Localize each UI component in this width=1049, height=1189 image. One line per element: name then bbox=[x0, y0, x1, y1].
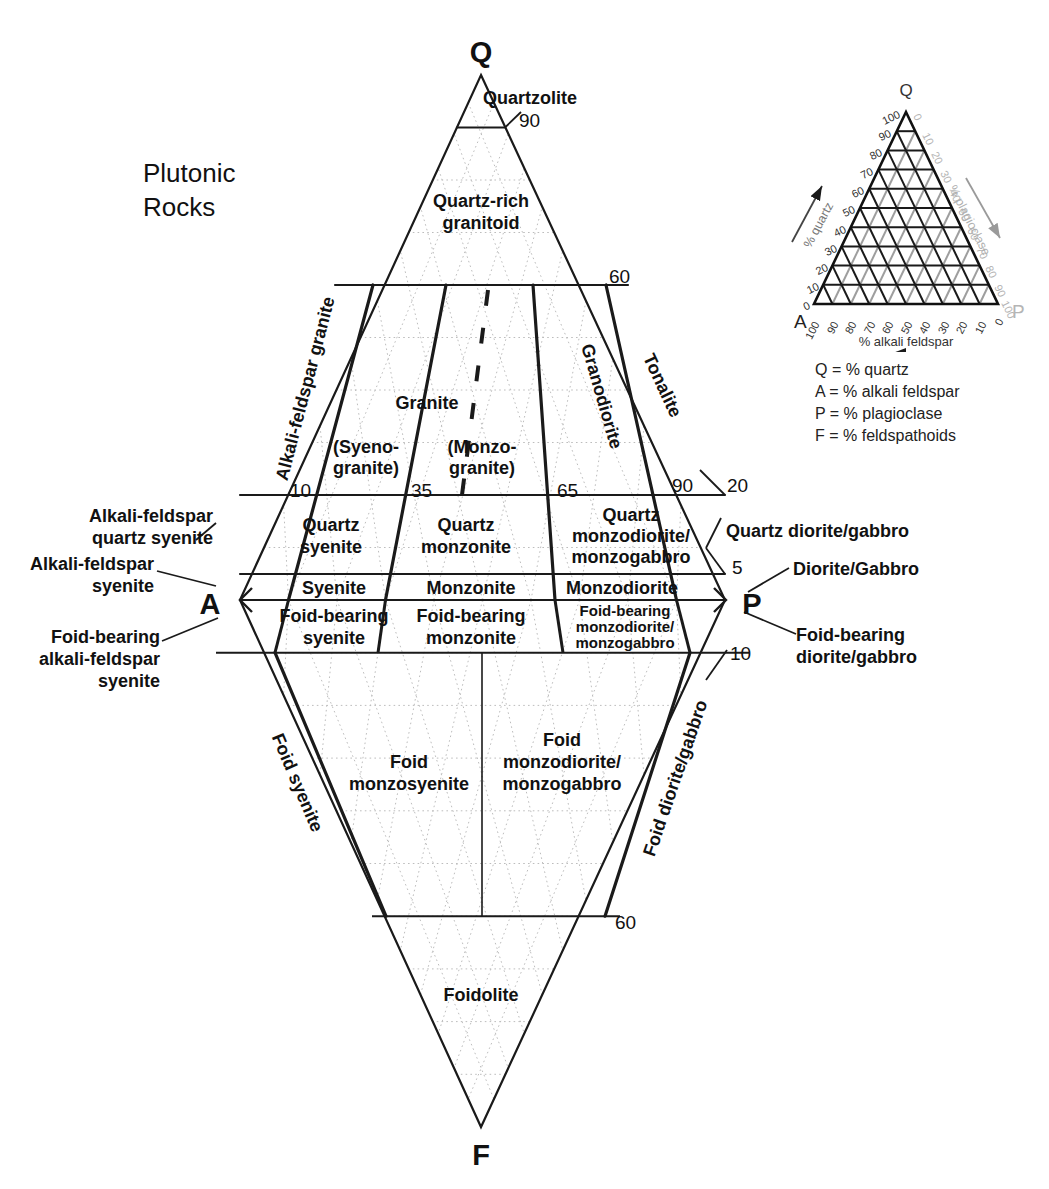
inset-left-tick-10: 100 bbox=[880, 108, 902, 127]
tick-a35: 35 bbox=[411, 480, 432, 501]
legend-item-2: P = % plagioclase bbox=[815, 405, 942, 422]
field-syeno-granite-l2: granite) bbox=[333, 458, 399, 478]
ext-dg: Diorite/Gabbro bbox=[793, 559, 919, 579]
field-granite: Granite bbox=[395, 393, 458, 413]
field-foid-bearing-monzonite-l1: Foid-bearing bbox=[417, 606, 526, 626]
field-foid-monzodiorite-l3: monzogabbro bbox=[503, 774, 622, 794]
legend-item-1: A = % alkali feldspar bbox=[815, 383, 960, 400]
field-foid-monzosyenite-l2: monzosyenite bbox=[349, 774, 469, 794]
ext-qdg: Quartz diorite/gabbro bbox=[726, 521, 909, 541]
page-title-line1: Plutonic bbox=[143, 158, 236, 188]
vertex-label-q: Q bbox=[470, 36, 493, 68]
inset-bottom-tick-10: 0 bbox=[992, 316, 1005, 327]
legend-item-3: F = % feldspathoids bbox=[815, 427, 956, 444]
vertex-label-a: A bbox=[200, 588, 221, 620]
tick-q90: 90 bbox=[519, 110, 540, 131]
field-foid-bearing-monzodiorite-l2: monzodiorite/ bbox=[576, 618, 675, 635]
tick-f60: 60 bbox=[615, 912, 636, 933]
field-syeno-granite-l1: (Syeno- bbox=[333, 437, 399, 457]
ext-fbafs-l2: alkali-feldspar bbox=[39, 649, 160, 669]
inset-bottom-tick-1: 90 bbox=[824, 319, 840, 335]
legend-item-0: Q = % quartz bbox=[815, 361, 909, 378]
field-syenite: Syenite bbox=[302, 578, 366, 598]
tick-p10: 10 bbox=[730, 643, 751, 664]
field-foid-bearing-monzodiorite-l1: Foid-bearing bbox=[580, 602, 671, 619]
field-foid-monzodiorite-l1: Foid bbox=[543, 730, 581, 750]
inset-ternary-diagram: Q bbox=[748, 72, 1048, 352]
field-foidolite: Foidolite bbox=[444, 985, 519, 1005]
ext-afs-l2: syenite bbox=[92, 576, 154, 596]
field-quartz-monzodiorite-l1: Quartz bbox=[602, 505, 659, 525]
tick-q60: 60 bbox=[609, 266, 630, 287]
inset-left-tick-9: 90 bbox=[877, 127, 893, 143]
field-monzonite: Monzonite bbox=[427, 578, 516, 598]
tick-p20: 20 bbox=[727, 475, 748, 496]
ext-afqs-l1: Alkali-feldspar bbox=[89, 506, 213, 526]
inset-axis-label-alkali-feldspar: % alkali feldspar bbox=[859, 334, 954, 349]
field-quartz-monzonite-l2: monzonite bbox=[421, 537, 511, 557]
inset-bottom-tick-8: 20 bbox=[953, 319, 969, 335]
inset-bottom-tick-9: 10 bbox=[972, 319, 988, 335]
inset-left-tick-7: 70 bbox=[859, 165, 875, 181]
ext-afs-l1: Alkali-feldspar bbox=[30, 554, 154, 574]
ext-fbdg-l1: Foid-bearing bbox=[796, 625, 905, 645]
field-tonalite: Tonalite bbox=[639, 351, 686, 421]
inset-corner-label-a: A bbox=[794, 311, 807, 332]
qapf-diagram-page: Q A P F Plutonic Rocks 90 60 10 35 65 90… bbox=[0, 0, 1049, 1189]
field-labels: Quartzolite Quartz-rich granitoid Granit… bbox=[280, 88, 691, 1005]
field-quartz-monzodiorite-l3: monzogabbro bbox=[572, 547, 691, 567]
field-foid-bearing-syenite-l1: Foid-bearing bbox=[280, 606, 389, 626]
tick-a65: 65 bbox=[557, 480, 578, 501]
inset-apex-label-q: Q bbox=[899, 81, 912, 100]
tick-p5: 5 bbox=[732, 557, 743, 578]
page-title-line2: Rocks bbox=[143, 192, 215, 222]
inset-bottom-tick-2: 80 bbox=[842, 319, 858, 335]
field-monzo-granite-l2: granite) bbox=[449, 458, 515, 478]
inset-right-tick-0: 0 bbox=[911, 112, 924, 123]
field-monzodiorite: Monzodiorite bbox=[566, 578, 678, 598]
field-quartz-syenite-l1: Quartz bbox=[302, 515, 359, 535]
field-quartz-monzonite-l1: Quartz bbox=[437, 515, 494, 535]
field-monzo-granite-l1: (Monzo- bbox=[448, 437, 517, 457]
field-quartz-syenite-l2: syenite bbox=[300, 537, 362, 557]
field-quartzolite: Quartzolite bbox=[483, 88, 577, 108]
tick-a10: 10 bbox=[290, 480, 311, 501]
field-granodiorite: Granodiorite bbox=[577, 342, 626, 451]
field-quartz-rich-granitoid-l2: granitoid bbox=[443, 213, 520, 233]
field-quartz-rich-granitoid-l1: Quartz-rich bbox=[433, 191, 529, 211]
field-foid-bearing-syenite-l2: syenite bbox=[303, 628, 365, 648]
inset-left-tick-8: 80 bbox=[868, 146, 884, 162]
legend-block: Q = % quartz A = % alkali feldspar P = %… bbox=[815, 361, 960, 444]
vertex-label-f: F bbox=[472, 1139, 490, 1171]
field-foid-monzodiorite-l2: monzodiorite/ bbox=[503, 752, 621, 772]
field-foid-bearing-monzonite-l2: monzonite bbox=[426, 628, 516, 648]
inset-left-ticks: 0 10 20 30 40 50 60 70 80 90 100 bbox=[801, 108, 902, 312]
field-foid-monzosyenite-l1: Foid bbox=[390, 752, 428, 772]
field-foid-bearing-monzodiorite-l3: monzogabbro bbox=[575, 634, 674, 651]
field-foid-syenite: Foid syenite bbox=[268, 730, 327, 834]
inset-left-tick-6: 60 bbox=[850, 184, 866, 200]
tick-a90: 90 bbox=[672, 475, 693, 496]
inset-corner-label-p: P bbox=[1012, 301, 1025, 322]
ext-afqs-l2: quartz syenite bbox=[92, 528, 213, 548]
ext-fbafs-l1: Foid-bearing bbox=[51, 627, 160, 647]
vertex-label-p: P bbox=[742, 588, 761, 620]
ext-fbafs-l3: syenite bbox=[98, 671, 160, 691]
field-quartz-monzodiorite-l2: monzodiorite/ bbox=[572, 526, 690, 546]
ext-fbdg-l2: diorite/gabbro bbox=[796, 647, 917, 667]
